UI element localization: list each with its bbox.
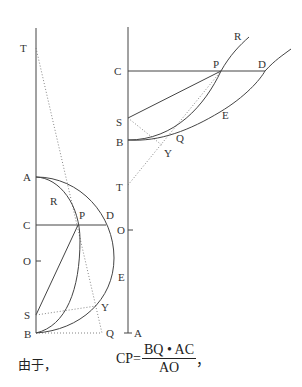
left-label-E: E xyxy=(118,271,125,283)
formula: CP= BQ • AC AO ， xyxy=(116,342,210,376)
formula-denominator: AO xyxy=(159,359,179,376)
right-label-Y: Y xyxy=(164,147,172,159)
left-label-C: C xyxy=(23,219,30,231)
formula-numerator: BQ • AC xyxy=(142,342,196,359)
left-tangent-TQ xyxy=(36,48,102,333)
formula-lhs: CP= xyxy=(116,351,141,367)
caption-text: 由于， xyxy=(18,354,57,373)
left-label-A: A xyxy=(23,171,31,183)
geometry-figure: T A R C P D O E S Y B Q R C P D S E Q B … xyxy=(0,0,302,340)
left-label-T: T xyxy=(20,42,27,54)
left-label-Q: Q xyxy=(106,327,114,339)
right-tangent-TP xyxy=(128,71,221,185)
right-label-E: E xyxy=(222,109,229,121)
right-dotted-SY xyxy=(128,118,163,146)
left-label-Y: Y xyxy=(101,301,109,313)
left-label-R: R xyxy=(50,195,58,207)
right-label-P: P xyxy=(213,58,219,70)
right-label-B: B xyxy=(116,136,123,148)
left-label-P: P xyxy=(79,209,85,221)
left-inner-curve-APB xyxy=(36,177,80,333)
right-label-R: R xyxy=(234,30,242,42)
right-label-C: C xyxy=(114,65,121,77)
formula-fraction: BQ • AC AO xyxy=(142,342,196,376)
left-figure: T A R C P D O E S Y B Q xyxy=(20,28,125,340)
right-figure: R C P D S E Q B Y T O A xyxy=(114,27,291,339)
left-label-S: S xyxy=(24,309,30,321)
right-label-T: T xyxy=(116,181,123,193)
right-label-Q: Q xyxy=(176,132,184,144)
left-line-SP xyxy=(36,225,78,315)
left-label-D: D xyxy=(106,209,114,221)
right-label-S: S xyxy=(116,116,122,128)
left-label-O: O xyxy=(23,255,31,267)
right-label-A: A xyxy=(134,327,142,339)
right-label-O: O xyxy=(117,224,125,236)
left-label-B: B xyxy=(24,328,31,340)
formula-trailing: ， xyxy=(196,349,210,369)
right-label-D: D xyxy=(258,58,266,70)
right-curve-BPR xyxy=(128,37,249,140)
right-curve-BQED xyxy=(128,49,291,140)
